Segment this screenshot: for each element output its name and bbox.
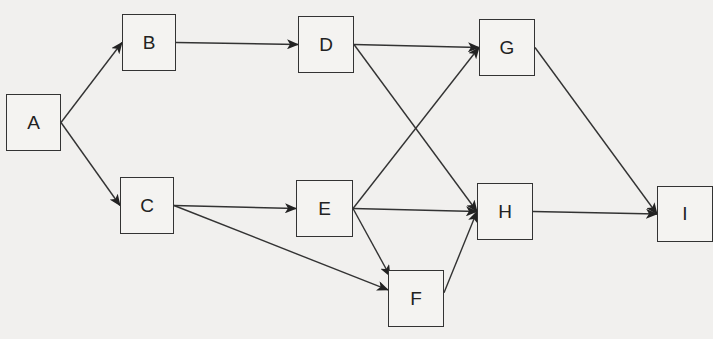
edge-e-f (353, 209, 390, 277)
node-e: E (296, 180, 353, 237)
edges-layer (0, 0, 713, 339)
node-g: G (479, 19, 535, 76)
node-h: H (477, 183, 533, 240)
edge-g-i (535, 48, 657, 215)
edge-f-h (444, 212, 477, 293)
node-a: A (6, 94, 61, 151)
edge-d-g (354, 45, 479, 48)
edge-a-b (61, 43, 122, 123)
node-f: F (388, 270, 444, 327)
node-d: D (298, 16, 354, 73)
edge-e-h (353, 209, 477, 212)
edge-h-i (533, 212, 657, 215)
edge-b-d (176, 43, 298, 45)
node-i: I (657, 186, 713, 242)
node-c: C (120, 177, 174, 234)
network-diagram: ABCDEFGHI (0, 0, 713, 339)
edge-a-c (61, 123, 120, 206)
edge-c-f (174, 206, 388, 290)
edge-e-g (353, 48, 479, 209)
edge-c-e (174, 206, 296, 209)
node-b: B (122, 14, 176, 71)
